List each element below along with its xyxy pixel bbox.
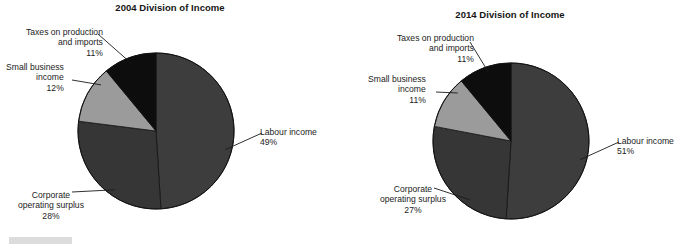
label-taxes-2014: Taxes on production and imports 11% bbox=[397, 33, 474, 64]
pie-slice bbox=[156, 53, 234, 209]
label-corporate-line1-2004: Corporate bbox=[18, 190, 84, 200]
label-labour-value-2004: 49% bbox=[260, 137, 317, 147]
label-small-business-line1-2004: Small business bbox=[6, 62, 64, 72]
label-small-business-value-2004: 12% bbox=[6, 83, 64, 93]
label-labour-value-2014: 51% bbox=[617, 146, 674, 156]
label-small-business-line1-2014: Small business bbox=[368, 74, 426, 84]
pie-slice bbox=[78, 121, 161, 209]
label-labour-2014: Labour income 51% bbox=[617, 136, 674, 157]
label-small-business-line2-2004: income bbox=[6, 72, 64, 82]
pie-chart-2014: 2014 Division of Income Taxes on product… bbox=[340, 0, 680, 248]
label-labour-2004: Labour income 49% bbox=[260, 127, 317, 148]
pie-chart-2004: 2004 Division of Income Taxes on product… bbox=[0, 0, 340, 248]
label-corporate-value-2004: 28% bbox=[18, 211, 84, 221]
label-taxes-line2-2004: and imports bbox=[26, 37, 103, 47]
label-taxes-line1-2014: Taxes on production bbox=[397, 33, 474, 43]
label-taxes-2004: Taxes on production and imports 11% bbox=[26, 27, 103, 58]
label-corporate-2004: Corporate operating surplus 28% bbox=[18, 190, 84, 221]
label-corporate-value-2014: 27% bbox=[380, 205, 446, 215]
scan-artifact-bar bbox=[9, 237, 72, 244]
label-small-business-2014: Small business income 11% bbox=[368, 74, 426, 105]
label-taxes-value-2014: 11% bbox=[397, 54, 474, 64]
label-labour-name-2004: Labour income bbox=[260, 127, 317, 137]
label-small-business-2004: Small business income 12% bbox=[6, 62, 64, 93]
label-corporate-line2-2014: operating surplus bbox=[380, 194, 446, 204]
leader-line bbox=[98, 34, 132, 64]
label-small-business-line2-2014: income bbox=[368, 84, 426, 94]
label-taxes-line2-2014: and imports bbox=[397, 43, 474, 53]
label-small-business-value-2014: 11% bbox=[368, 95, 426, 105]
label-labour-name-2014: Labour income bbox=[617, 136, 674, 146]
label-corporate-line2-2004: operating surplus bbox=[18, 200, 84, 210]
label-corporate-2014: Corporate operating surplus 27% bbox=[380, 184, 446, 215]
pie-slice bbox=[506, 63, 589, 219]
label-corporate-line1-2014: Corporate bbox=[380, 184, 446, 194]
label-taxes-value-2004: 11% bbox=[26, 48, 103, 58]
label-taxes-line1-2004: Taxes on production bbox=[26, 27, 103, 37]
figure-canvas: 2004 Division of Income Taxes on product… bbox=[0, 0, 680, 248]
